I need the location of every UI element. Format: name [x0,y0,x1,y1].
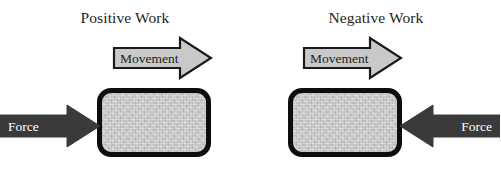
block-arrow-left-icon [399,104,500,148]
diagram-canvas: Positive Work Movement Force Negative Wo… [0,0,501,176]
movement-arrow-negative: Movement [302,36,403,80]
panel-title-positive-work: Positive Work [0,8,250,27]
object-body-negative [288,88,402,157]
force-arrow-negative: Force [399,104,500,148]
block-arrow-right-icon [302,36,403,80]
block-arrow-right-icon [112,36,213,80]
force-arrow-positive: Force [0,104,101,148]
object-body-positive [97,88,211,157]
movement-arrow-positive: Movement [112,36,213,80]
panel-negative-work: Negative Work Movement Force [251,0,501,176]
panel-title-negative-work: Negative Work [251,8,501,27]
panel-positive-work: Positive Work Movement Force [0,0,250,176]
block-arrow-right-icon [0,104,101,148]
